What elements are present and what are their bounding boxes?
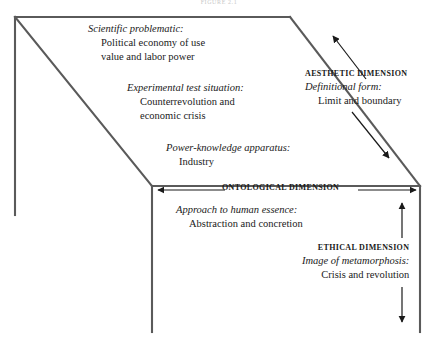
experimental-heading: Experimental test situation:: [127, 81, 244, 95]
aesthetic-line-1: Limit and boundary: [305, 94, 407, 108]
text-block-ontological-dimension: X Approach to human essence: Abstraction…: [176, 192, 303, 231]
text-block-aesthetic-dimension: AESTHETIC DIMENSION Definitional form: L…: [305, 69, 407, 108]
ethical-dimension-label: ETHICAL DIMENSION: [302, 243, 409, 254]
scientific-line-1: Political economy of use: [88, 36, 205, 50]
box-wireframe: [0, 0, 438, 341]
experimental-line-1: Counterrevolution and: [127, 95, 244, 109]
scientific-heading: Scientific problematic:: [88, 22, 205, 36]
ethical-heading: Image of metamorphosis:: [302, 254, 409, 268]
text-block-power-knowledge-apparatus: Power-knowledge apparatus: Industry: [166, 141, 290, 169]
ontological-dimension-label: ONTOLOGICAL DIMENSION: [222, 183, 339, 194]
ontological-heading: Approach to human essence:: [176, 203, 303, 217]
figure-caption: FIGURE 2.1: [0, 0, 438, 5]
aesthetic-heading: Definitional form:: [305, 80, 407, 94]
text-block-scientific-problematic: Scientific problematic: Political econom…: [88, 22, 205, 64]
aesthetic-dimension-label: AESTHETIC DIMENSION: [305, 69, 407, 80]
aesthetic-arrow-lower: [352, 112, 389, 158]
text-block-ethical-dimension: ETHICAL DIMENSION Image of metamorphosis…: [302, 243, 409, 282]
power-line-1: Industry: [166, 155, 290, 169]
ontological-line-1: Abstraction and concretion: [176, 217, 303, 231]
box-edges: [15, 17, 420, 332]
diagram-canvas: FIGURE 2.1: [0, 0, 438, 341]
experimental-line-2: economic crisis: [127, 109, 244, 123]
text-block-experimental-test-situation: Experimental test situation: Counterrevo…: [127, 81, 244, 123]
scientific-line-2: value and labor power: [88, 50, 205, 64]
ethical-line-1: Crisis and revolution: [302, 268, 409, 282]
power-heading: Power-knowledge apparatus:: [166, 141, 290, 155]
